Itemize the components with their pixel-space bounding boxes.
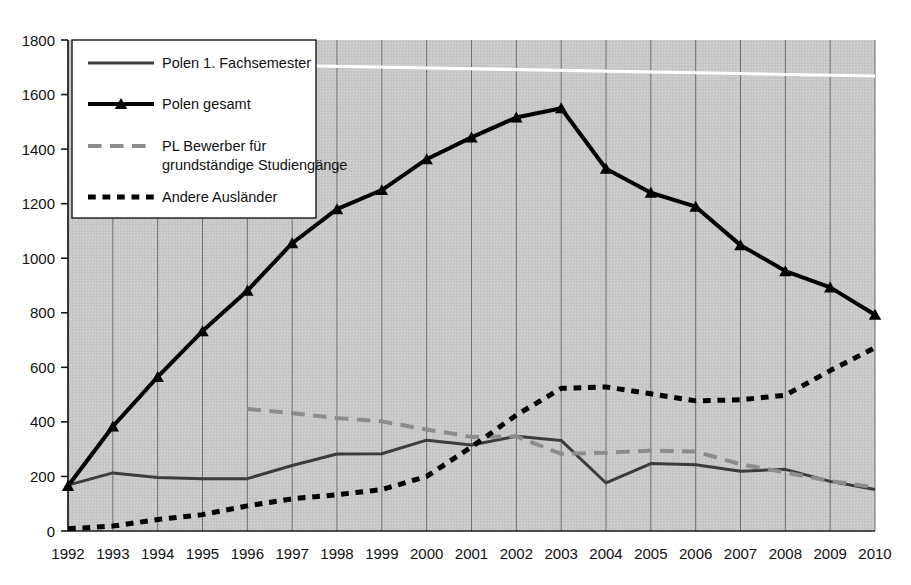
x-tick-label: 2009 xyxy=(813,545,846,562)
x-tick-label: 1995 xyxy=(186,545,219,562)
x-axis-tick-labels: 1992199319941995199619971998199920002001… xyxy=(51,545,891,562)
x-tick-label: 2000 xyxy=(410,545,443,562)
y-axis-tick-labels: 020040060080010001200140016001800 xyxy=(22,32,55,540)
y-tick-marks xyxy=(61,40,68,531)
y-tick-label: 0 xyxy=(47,523,55,540)
x-tick-label: 1993 xyxy=(96,545,129,562)
x-tick-label: 2002 xyxy=(500,545,533,562)
x-tick-label: 1999 xyxy=(365,545,398,562)
y-tick-label: 400 xyxy=(30,413,55,430)
x-tick-label: 1994 xyxy=(141,545,174,562)
y-tick-label: 1800 xyxy=(22,32,55,49)
y-tick-label: 1000 xyxy=(22,250,55,267)
y-tick-label: 1400 xyxy=(22,141,55,158)
x-tick-label: 2008 xyxy=(769,545,802,562)
chart-legend: Polen 1. FachsemesterPolen gesamtPL Bewe… xyxy=(72,40,347,218)
x-tick-label: 1992 xyxy=(51,545,84,562)
y-tick-label: 1600 xyxy=(22,86,55,103)
legend-label: PL Bewerber für xyxy=(162,138,266,154)
line-chart: 020040060080010001200140016001800 199219… xyxy=(0,0,911,585)
y-tick-label: 600 xyxy=(30,359,55,376)
x-tick-label: 2010 xyxy=(858,545,891,562)
x-tick-label: 2005 xyxy=(634,545,667,562)
x-tick-label: 2003 xyxy=(544,545,577,562)
x-tick-label: 2007 xyxy=(724,545,757,562)
chart-page: 020040060080010001200140016001800 199219… xyxy=(0,0,911,585)
legend-label-continued: grundständige Studiengänge xyxy=(162,157,347,173)
legend-label: Andere Ausländer xyxy=(162,189,277,205)
y-tick-label: 200 xyxy=(30,468,55,485)
legend-label: Polen 1. Fachsemester xyxy=(162,55,311,71)
x-tick-label: 1996 xyxy=(231,545,264,562)
y-tick-label: 1200 xyxy=(22,195,55,212)
x-tick-label: 1997 xyxy=(275,545,308,562)
y-tick-label: 800 xyxy=(30,304,55,321)
x-tick-label: 2004 xyxy=(589,545,622,562)
x-tick-label: 1998 xyxy=(320,545,353,562)
x-tick-label: 2001 xyxy=(455,545,488,562)
legend-label: Polen gesamt xyxy=(162,96,251,112)
x-tick-label: 2006 xyxy=(679,545,712,562)
